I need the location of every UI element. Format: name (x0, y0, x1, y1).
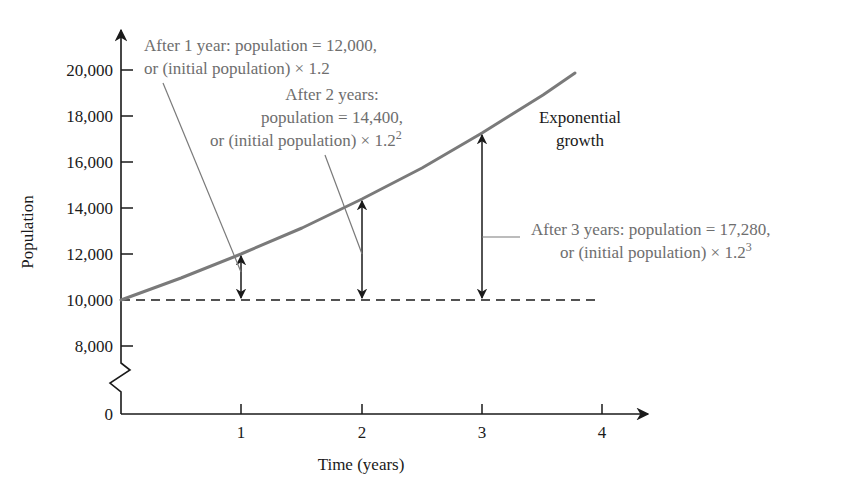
y-tick-label: 0 (105, 405, 114, 424)
year3-annotation-line1: After 3 years: population = 17,280, (531, 220, 771, 239)
year1-annotation-line2: or (initial population) × 1.2 (144, 59, 330, 78)
y-tick-label: 14,000 (66, 199, 113, 218)
year1-annotation: After 1 year: population = 12,000, or (i… (144, 36, 377, 78)
y-ticks (121, 70, 133, 346)
year2-leader-line (325, 155, 362, 254)
x-ticks (241, 404, 602, 414)
x-tick-labels: 1 2 3 4 (237, 423, 607, 442)
curve-label: Exponential growth (539, 108, 621, 150)
y-tick-label: 18,000 (66, 107, 113, 126)
year3-annotation: After 3 years: population = 17,280, or (… (531, 220, 771, 262)
year2-annotation-line2: population = 14,400, (261, 108, 403, 127)
y-axis-title: Population (18, 195, 37, 269)
year1-leader-line (163, 83, 241, 272)
x-axis-title: Time (years) (318, 455, 405, 474)
year2-annotation-line1: After 2 years: (285, 85, 378, 104)
y-tick-label: 10,000 (66, 291, 113, 310)
y-tick-label: 16,000 (66, 153, 113, 172)
year2-annotation: After 2 years: population = 14,400, or (… (210, 85, 403, 150)
y-tick-labels: 20,000 18,000 16,000 14,000 12,000 10,00… (66, 61, 113, 424)
y-tick-label: 8,000 (75, 337, 113, 356)
curve-label-line2: growth (556, 131, 605, 150)
year3-annotation-line2: or (initial population) × 1.23 (560, 240, 752, 262)
y-axis (110, 30, 130, 414)
y-tick-label: 20,000 (66, 61, 113, 80)
x-tick-label: 3 (478, 423, 487, 442)
y-tick-label: 12,000 (66, 245, 113, 264)
exponential-growth-chart: 20,000 18,000 16,000 14,000 12,000 10,00… (0, 0, 845, 493)
year2-annotation-line3: or (initial population) × 1.22 (210, 128, 402, 150)
x-tick-label: 1 (237, 423, 246, 442)
x-tick-label: 2 (358, 423, 367, 442)
year1-annotation-line1: After 1 year: population = 12,000, (144, 36, 377, 55)
x-tick-label: 4 (598, 423, 607, 442)
curve-label-line1: Exponential (539, 108, 621, 127)
